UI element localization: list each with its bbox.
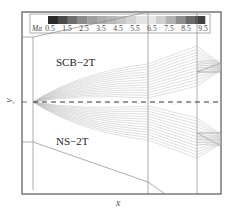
- region-label-lower: NS−2T: [56, 135, 88, 147]
- colorbar-tick: 1.5: [62, 24, 71, 33]
- x-axis-label: x: [116, 197, 120, 208]
- colorbar-title: Ma: [32, 24, 42, 33]
- colorbar-tick: 4.5: [113, 24, 122, 33]
- colorbar-tick: 7.5: [164, 24, 173, 33]
- region-label-upper: SCB−2T: [56, 56, 95, 68]
- colorbar-tick: 5.5: [130, 24, 139, 33]
- inlet-walls: [22, 12, 221, 194]
- colorbar-tick: 9.5: [198, 24, 207, 33]
- colorbar-tick: 6.5: [147, 24, 156, 33]
- colorbar-tick: 2.5: [79, 24, 88, 33]
- colorbar-gradient: [48, 16, 205, 24]
- colorbar-tick: 3.5: [96, 24, 105, 33]
- y-axis-label: y: [3, 98, 14, 102]
- plot-frame: [22, 12, 221, 194]
- colorbar-tick: 8.5: [181, 24, 190, 33]
- colorbar-tick: 0.5: [45, 24, 54, 33]
